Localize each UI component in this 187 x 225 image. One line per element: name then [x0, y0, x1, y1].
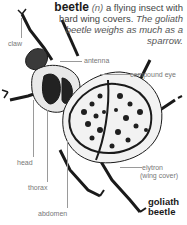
- label-thorax: thorax: [28, 184, 47, 192]
- label-elytron: elytron: [142, 164, 163, 172]
- headword: beetle: [54, 0, 89, 14]
- label-compound-eye: compound eye: [130, 71, 176, 79]
- claw-leader-line: [21, 18, 22, 38]
- label-abdomen: abdomen: [38, 210, 67, 218]
- illustration-title: goliath beetle: [148, 197, 179, 217]
- antenna-leader-line: [60, 61, 82, 62]
- label-antenna: antenna: [84, 57, 109, 65]
- part-of-speech: (n): [92, 2, 104, 13]
- elytron-leader-line: [120, 167, 142, 168]
- abdomen-leader-line: [67, 140, 68, 208]
- dictionary-entry: beetle (n) a flying insect with hard win…: [33, 2, 183, 46]
- label-claw: claw: [8, 40, 22, 48]
- label-head: head: [17, 159, 33, 167]
- label-elytron-note: (wing cover): [140, 172, 178, 180]
- head-leader-line: [33, 100, 34, 157]
- thorax-leader-line: [47, 110, 48, 182]
- illustration-title-line2: beetle: [148, 207, 179, 217]
